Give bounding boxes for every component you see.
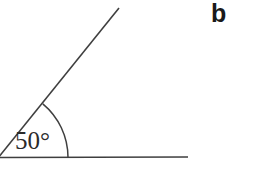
angle-measure-label: 50°	[15, 128, 50, 153]
part-label-b: b	[211, 1, 226, 26]
horizontal-ray	[0, 157, 188, 158]
angle-diagram-figure: 50° b	[0, 0, 255, 177]
